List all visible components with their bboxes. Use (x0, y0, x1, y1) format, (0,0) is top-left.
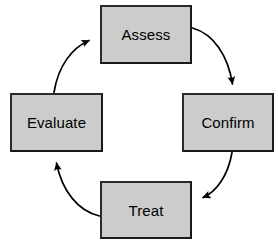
edge-treat-to-evaluate (57, 163, 100, 216)
node-confirm-label: Confirm (201, 115, 254, 130)
node-evaluate-label: Evaluate (27, 115, 86, 130)
cycle-diagram: Assess Confirm Treat Evaluate (0, 0, 278, 250)
node-assess-label: Assess (122, 27, 171, 42)
node-assess[interactable]: Assess (100, 5, 192, 64)
node-treat[interactable]: Treat (100, 181, 192, 239)
edge-assess-to-confirm (193, 28, 233, 84)
edge-confirm-to-treat (203, 153, 232, 198)
node-evaluate[interactable]: Evaluate (10, 93, 103, 152)
edge-evaluate-to-assess (54, 41, 89, 93)
node-treat-label: Treat (129, 203, 164, 218)
node-confirm[interactable]: Confirm (182, 93, 274, 152)
